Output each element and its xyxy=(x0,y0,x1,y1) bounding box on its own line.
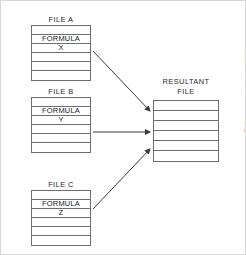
resultant-row-4 xyxy=(154,131,218,141)
file-group-c: FILE C FORMULA Z xyxy=(31,180,91,246)
file-c-row-5 xyxy=(32,227,90,236)
file-a-box: FORMULA X xyxy=(31,25,91,81)
file-a-row-3: X xyxy=(32,44,90,53)
file-b-box: FORMULA Y xyxy=(31,97,91,153)
copyright-notice: © Cengage Learning 2013 xyxy=(244,119,246,133)
arrow-file-a-to-resultant xyxy=(93,51,150,111)
file-b-row-6 xyxy=(32,143,90,152)
file-a-row-1 xyxy=(32,26,90,35)
resultant-row-1 xyxy=(154,101,218,111)
file-b-label: FILE B xyxy=(31,87,91,97)
file-b-row-2: FORMULA xyxy=(32,107,90,116)
file-c-row-2: FORMULA xyxy=(32,200,90,209)
diagram-canvas: FILE A FORMULA X FILE B FORMULA Y FILE C… xyxy=(0,0,246,255)
resultant-file-box xyxy=(153,100,219,162)
resultant-file-label-line1: RESULTANT xyxy=(153,77,219,87)
resultant-row-5 xyxy=(154,141,218,151)
file-c-label: FILE C xyxy=(31,180,91,190)
arrow-file-c-to-resultant xyxy=(93,149,150,209)
file-a-row-4 xyxy=(32,53,90,62)
resultant-file-group: RESULTANT FILE xyxy=(153,77,219,162)
file-c-row-4 xyxy=(32,218,90,227)
resultant-row-3 xyxy=(154,121,218,131)
file-group-b: FILE B FORMULA Y xyxy=(31,87,91,153)
file-b-row-3: Y xyxy=(32,116,90,125)
file-c-row-1 xyxy=(32,191,90,200)
file-c-row-3: Z xyxy=(32,209,90,218)
file-a-row-5 xyxy=(32,62,90,71)
file-a-row-6 xyxy=(32,71,90,80)
file-a-row-2: FORMULA xyxy=(32,35,90,44)
file-c-box: FORMULA Z xyxy=(31,190,91,246)
resultant-row-2 xyxy=(154,111,218,121)
file-group-a: FILE A FORMULA X xyxy=(31,15,91,81)
file-b-row-4 xyxy=(32,125,90,134)
file-b-row-5 xyxy=(32,134,90,143)
resultant-file-label-line2: FILE xyxy=(153,87,219,97)
resultant-row-6 xyxy=(154,151,218,161)
file-c-row-6 xyxy=(32,236,90,245)
file-a-label: FILE A xyxy=(31,15,91,25)
file-b-row-1 xyxy=(32,98,90,107)
